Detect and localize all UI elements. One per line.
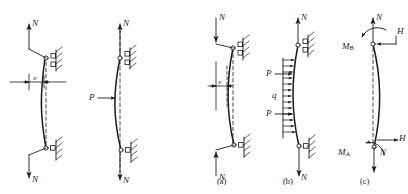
panel2-axial-load-top-label: N [123, 19, 129, 28]
pin-node-top [371, 42, 375, 46]
support-top [231, 35, 249, 60]
column-diagrams-svg [0, 0, 408, 194]
moment-bottom-symbol: M [338, 147, 346, 157]
panel2-axial-load-bottom-label: N [123, 176, 129, 185]
wall-hatching [244, 134, 250, 157]
roller-box-upper [51, 54, 56, 59]
panel-b [275, 18, 315, 176]
axial-load-top-arrow [29, 24, 46, 58]
wall-hatching [308, 32, 314, 55]
moment-top-symbol: M [342, 41, 350, 51]
panel-b-axial-load-bottom-label: N [301, 173, 307, 182]
wall-hatching [131, 139, 137, 162]
support-bottom [44, 137, 62, 160]
panel-a-axial-load-top-label: N [219, 13, 225, 22]
roller-box-lower [238, 51, 243, 56]
diagram-canvas: N N e N N P N N e N N P P q N N H H MB M… [0, 0, 408, 194]
support-top [118, 45, 136, 69]
panel-c-horizontal-reaction-top-label: H [397, 27, 404, 36]
eccentricity-marker [10, 74, 66, 90]
caption-c: (c) [360, 176, 369, 186]
panel-c-moment-top-label: MB [342, 42, 354, 52]
moment-top-subscript: B [350, 44, 354, 51]
panel-b-axial-load-top-label: N [301, 13, 307, 22]
roller-box-lower [303, 48, 308, 53]
support-bottom [232, 134, 250, 157]
wall-hatching [56, 137, 62, 160]
panel-c-axial-load-top-label: N [376, 13, 382, 22]
moment-top-arc [362, 28, 386, 37]
pin-node-top [118, 56, 122, 60]
panel-b-lateral-load-lower-label: P [266, 109, 272, 118]
panel-b-distributed-load-label: q [272, 91, 277, 100]
support-bottom [119, 139, 137, 162]
buckled-column-curve [373, 44, 380, 147]
roller-box [126, 148, 131, 153]
panel-c-axial-load-bottom-label: N [380, 148, 386, 157]
roller-box [51, 146, 56, 151]
pin-node-bottom [297, 144, 301, 148]
support-bottom [297, 135, 315, 158]
pin-node-top [296, 43, 300, 47]
panel-c-moment-bottom-label: MA [338, 148, 350, 158]
support-top [296, 32, 314, 57]
panel1-eccentricity-label: e [34, 75, 37, 82]
roller-box-lower [125, 60, 130, 65]
wall-hatching [243, 35, 249, 58]
buckled-column-curve [41, 58, 46, 148]
support-top [44, 47, 62, 71]
panel1-axial-load-top-label: N [32, 19, 38, 28]
caption-b: (b) [283, 176, 293, 186]
roller-box-upper [303, 39, 308, 44]
panel-left-1 [10, 24, 66, 178]
axial-load-top-arrow [216, 18, 233, 48]
panel1-axial-load-bottom-label: N [32, 175, 38, 184]
panel-b-lateral-load-upper-label: P [266, 69, 272, 78]
pin-node-bottom [119, 148, 123, 152]
wall-hatching [56, 47, 62, 70]
wall-hatching [130, 45, 136, 68]
roller-box-lower [51, 62, 56, 67]
moment-bottom-subscript: A [346, 150, 351, 157]
panel-left-2 [98, 24, 137, 180]
wall-hatching [309, 135, 315, 158]
roller-box [239, 143, 244, 148]
panel-a-eccentricity-label: e [219, 79, 222, 86]
panel2-lateral-load-label: P [89, 93, 95, 102]
roller-box-upper [238, 42, 243, 47]
panel-a [208, 18, 250, 176]
caption-a: (a) [217, 176, 226, 186]
roller-box [304, 144, 309, 149]
panel-c-horizontal-reaction-bottom-label: H [399, 134, 406, 143]
roller-box-upper [125, 52, 130, 57]
